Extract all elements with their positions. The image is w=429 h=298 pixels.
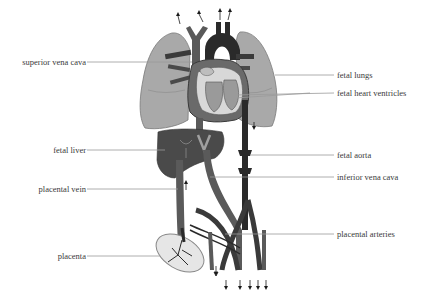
label-fetal-heart-ventricles: fetal heart ventricles xyxy=(337,88,406,98)
label-fetal-aorta: fetal aorta xyxy=(337,150,371,160)
label-placental-vein: placental vein xyxy=(14,184,86,194)
aortic-arch xyxy=(205,33,240,60)
label-inferior-vena-cava: inferior vena cava xyxy=(337,172,398,182)
label-fetal-lungs: fetal lungs xyxy=(337,70,373,80)
fetal-liver-shape xyxy=(157,129,224,178)
label-placenta: placenta xyxy=(14,251,86,261)
label-placental-arteries: placental arteries xyxy=(337,229,395,239)
label-fetal-liver: fetal liver xyxy=(14,145,86,155)
label-superior-vena-cava: superior vena cava xyxy=(14,57,86,67)
